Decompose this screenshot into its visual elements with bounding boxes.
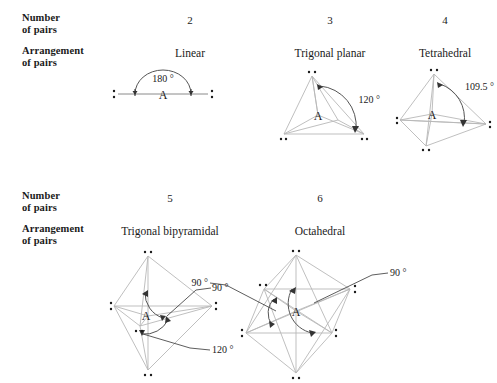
geometry-name-tetrahedral: Tetrahedral	[365, 47, 497, 59]
row-label-arrangement-of-pairs: Arrangement of pairs	[22, 45, 84, 68]
chart-row-2: Number of pairs Arrangement of pairs 5 6…	[0, 175, 497, 383]
angle-label-120-tbp: 120 °	[212, 344, 234, 355]
angle-label-120: 120 °	[359, 94, 381, 105]
pair-count-3: 3	[290, 14, 370, 26]
row-label-number-of-pairs-2: Number of pairs	[22, 190, 60, 213]
central-atom-tetrahedral: A	[428, 108, 437, 122]
central-atom-trigonal-bipyramidal: A	[142, 309, 151, 323]
skeleton-lines	[284, 76, 364, 134]
central-atom-linear: A	[159, 88, 168, 102]
pair-count-5: 5	[130, 192, 210, 204]
skeleton-lines	[114, 256, 212, 370]
angle-label-90-oct-right: 90 °	[390, 267, 407, 278]
row-label-number-of-pairs: Number of pairs	[22, 12, 60, 35]
pair-count-6: 6	[280, 192, 360, 204]
geometry-name-octahedral: Octahedral	[240, 225, 400, 237]
pair-count-2: 2	[150, 14, 230, 26]
central-atom-trigonal-planar: A	[314, 109, 323, 123]
row-label-arrangement-of-pairs-2: Arrangement of pairs	[22, 223, 84, 246]
pair-count-4: 4	[405, 14, 485, 26]
geometry-name-linear: Linear	[110, 47, 270, 59]
figure-linear: 180 ° A	[108, 62, 218, 110]
angle-label-180: 180 °	[152, 73, 174, 84]
figure-tetrahedral: A 109.5 °	[396, 66, 496, 152]
figure-octahedral: A 90 ° 90 °	[232, 245, 432, 381]
central-atom-octahedral: A	[292, 305, 301, 319]
chart-row-1: Number of pairs Arrangement of pairs 2 3…	[0, 0, 497, 175]
angle-label-109: 109.5 °	[465, 81, 494, 92]
angle-label-90-oct-left: 90 °	[192, 277, 209, 288]
figure-trigonal-planar: A 120 °	[278, 68, 382, 150]
geometry-name-trigonal-bipyramidal: Trigonal bipyramidal	[90, 225, 250, 237]
vsepr-geometry-chart: Number of pairs Arrangement of pairs 2 3…	[0, 0, 497, 383]
